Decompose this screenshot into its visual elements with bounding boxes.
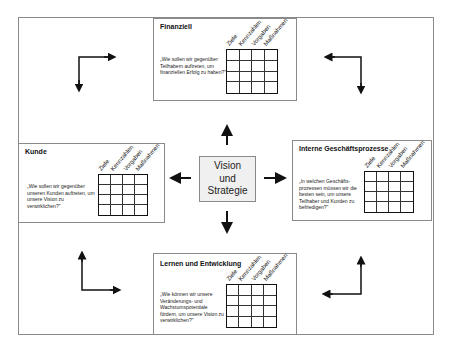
- corner-arrow-bottom-left-icon: [82, 255, 117, 290]
- internal-grid: [364, 171, 414, 213]
- learning-header-ziele: Ziele: [225, 268, 238, 282]
- perspective-learning: Lernen und Entwicklung „Wie können wir u…: [153, 253, 297, 335]
- customer-header-ziele: Ziele: [97, 158, 110, 172]
- corner-arrow-top-right-icon: [328, 57, 361, 90]
- customer-title: Kunde: [25, 148, 47, 155]
- learning-title: Lernen und Entwicklung: [160, 260, 241, 267]
- financial-title: Finanziell: [160, 23, 192, 30]
- financial-question: „Wie sollen wir gegenüber Teilhabern auf…: [160, 56, 228, 76]
- internal-question: „In welchen Geschäfts-prozessen müssen w…: [299, 178, 361, 211]
- learning-grid: [226, 284, 277, 328]
- corner-arrow-top-left-icon: [79, 57, 112, 88]
- customer-question: „Wie sollen wir gegenüber unseren Kunden…: [27, 183, 95, 209]
- center-line-3: Strategie: [207, 185, 247, 198]
- vision-strategy-box: Vision und Strategie: [199, 156, 256, 202]
- internal-header-ziele: Ziele: [363, 155, 376, 169]
- internal-title: Interne Geschäftsprozesse: [299, 145, 388, 152]
- center-line-2: und: [219, 173, 236, 186]
- learning-question: „Wie können wir unsere Veränderungs- und…: [160, 291, 226, 324]
- perspective-customer: Kunde „Wie sollen wir gegenüber unseren …: [18, 143, 165, 223]
- perspective-internal-processes: Interne Geschäftsprozesse „In welchen Ge…: [292, 140, 432, 221]
- corner-arrow-bottom-right-icon: [326, 260, 361, 294]
- center-line-1: Vision: [214, 160, 241, 173]
- customer-grid: [98, 174, 148, 216]
- perspective-financial: Finanziell „Wie sollen wir gegenüber Tei…: [153, 18, 297, 101]
- financial-grid: [226, 49, 278, 94]
- financial-header-ziele: Ziele: [225, 33, 238, 47]
